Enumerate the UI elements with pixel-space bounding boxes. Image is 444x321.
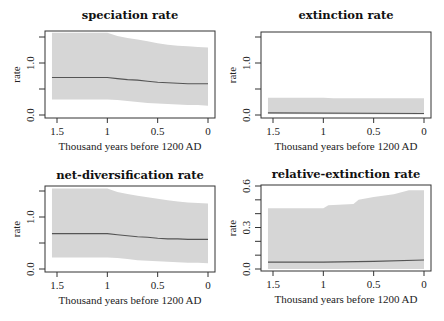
x-axis-label: Thousand years before 1200 AD — [59, 140, 202, 152]
x-tick-label: 1.5 — [266, 278, 280, 290]
x-axis-label: Thousand years before 1200 AD — [59, 294, 202, 306]
y-axis-label: rate — [10, 66, 22, 83]
x-tick-label: 0 — [421, 278, 427, 290]
y-tick-label: 1.0 — [240, 56, 252, 70]
y-tick-label: 0.6 — [240, 179, 252, 193]
x-tick-label: 1 — [321, 278, 327, 290]
y-tick-label: 0.0 — [240, 108, 252, 122]
panel-extinction-rate: 1.510.500.01.0extinction rateThousand ye… — [226, 8, 431, 152]
x-tick-label: 1 — [321, 125, 327, 137]
median-line — [268, 113, 424, 114]
panel-title: net-diversification rate — [56, 168, 204, 182]
y-axis-label: rate — [226, 220, 238, 237]
figure: 1.510.500.01.0speciation rateThousand ye… — [0, 0, 444, 321]
y-axis-label: rate — [10, 221, 22, 238]
x-tick-label: 1.5 — [50, 125, 64, 137]
panel-title: speciation rate — [82, 8, 179, 22]
panel-relative-extinction-rate: 1.510.500.00.30.6relative-extinction rat… — [226, 167, 431, 305]
hpd-band — [268, 98, 424, 115]
y-tick-label: 0.0 — [24, 108, 36, 122]
panel-title: relative-extinction rate — [272, 167, 421, 181]
x-tick-label: 0.5 — [367, 278, 381, 290]
y-tick-label: 0.3 — [240, 220, 252, 234]
hpd-band — [52, 33, 208, 106]
panel-title: extinction rate — [298, 8, 393, 22]
hpd-band — [268, 190, 424, 269]
y-tick-label: 1.0 — [24, 56, 36, 70]
x-tick-label: 0.5 — [367, 125, 381, 137]
x-tick-label: 1.5 — [266, 125, 280, 137]
x-tick-label: 0 — [421, 125, 427, 137]
x-axis-label: Thousand years before 1200 AD — [275, 293, 418, 305]
x-tick-label: 0 — [205, 279, 211, 291]
panel-net-diversification-rate: 1.510.500.01.0net-diversification rateTh… — [10, 168, 215, 306]
x-tick-label: 0.5 — [151, 279, 165, 291]
x-tick-label: 1 — [105, 125, 111, 137]
x-tick-label: 0.5 — [151, 125, 165, 137]
x-tick-label: 1 — [105, 279, 111, 291]
panel-speciation-rate: 1.510.500.01.0speciation rateThousand ye… — [10, 8, 215, 152]
y-tick-label: 0.0 — [240, 262, 252, 276]
x-tick-label: 1.5 — [50, 279, 64, 291]
x-tick-label: 0 — [205, 125, 211, 137]
x-axis-label: Thousand years before 1200 AD — [275, 140, 418, 152]
hpd-band — [52, 188, 208, 263]
y-tick-label: 1.0 — [24, 210, 36, 224]
y-axis-label: rate — [226, 67, 238, 84]
y-tick-label: 0.0 — [24, 262, 36, 276]
